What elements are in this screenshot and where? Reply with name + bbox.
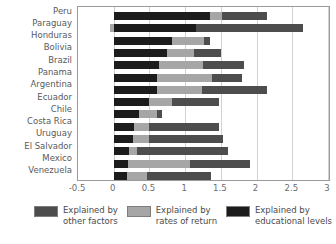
bar-row [78,160,328,168]
bar-segment-edu [114,61,159,69]
bar-segment-edu [114,24,196,32]
legend-label: Explained byrates of return [156,205,217,226]
bar-segment-edu [114,160,128,168]
bar-row [78,74,328,82]
legend-label: Explained byeducational levels [255,205,332,226]
bar-segment-edu [114,12,210,20]
y-axis-label: Ecuador [37,93,72,102]
y-axis-label: Peru [53,7,72,16]
bar-row [78,49,328,57]
bar-segment-ror [139,110,157,118]
y-axis-label: Uruguay [36,129,72,138]
bar-segment-edu [114,98,150,106]
bar-segment-edu [114,37,173,45]
bar-segment-ror [128,160,190,168]
bar-segment-ror [134,123,150,131]
y-axis-label: Panama [38,68,72,77]
bar-segment-ror [127,172,147,180]
bar-segment-oth [196,24,303,32]
bar-segment-oth [172,98,218,106]
stacked-bar-chart: PeruParaguayHondurasBoliviaBrazilPanamaA… [0,0,336,244]
x-tick-label: 3 [324,183,329,193]
bar-segment-edu [114,123,134,131]
bar-row [78,86,328,94]
bar-segment-oth [157,110,163,118]
x-tick-label: 1 [181,183,186,193]
bar-segment-edu [114,86,157,94]
bar-segment-edu [114,74,157,82]
bar-segment-edu [114,110,139,118]
chart-legend: Explained byother factorsExplained byrat… [34,205,332,239]
legend-item[interactable]: Explained byother factors [34,205,118,239]
bar-segment-oth [222,12,267,20]
y-axis-label: Mexico [42,154,72,163]
bar-segment-ror [157,86,202,94]
bar-row [78,110,328,118]
bar-row [78,123,328,131]
legend-swatch-icon [226,206,250,217]
y-axis-label: Paraguay [32,19,72,28]
bar-segment-oth [202,86,268,94]
plot-area [77,6,330,181]
bar-row [78,24,328,32]
bar-segment-ror [210,12,222,20]
bar-segment-oth [147,172,211,180]
legend-label: Explained byother factors [63,205,118,226]
legend-item[interactable]: Explained byrates of return [127,205,217,239]
bar-row [78,147,328,155]
bar-segment-edu [114,135,133,143]
bar-segment-oth [204,37,210,45]
x-tick-label: 2.5 [285,183,299,193]
bar-segment-edu [114,147,130,155]
bar-segment-oth [149,123,218,131]
bar-segment-oth [194,49,221,57]
y-axis-label: Chile [51,105,72,114]
bar-segment-ror [172,37,204,45]
bar-row [78,37,328,45]
bar-segment-edu [114,172,127,180]
bar-series-container [78,7,329,180]
bar-row [78,12,328,20]
bar-segment-ror [110,24,114,32]
bar-segment-ror [157,74,213,82]
y-axis-label: Bolivia [44,43,72,52]
bar-segment-ror [167,49,193,57]
legend-swatch-icon [127,206,151,217]
bar-segment-oth [190,160,250,168]
y-axis-category-labels: PeruParaguayHondurasBoliviaBrazilPanamaA… [0,0,76,182]
x-axis-tick-labels: -0.500.511.522.53 [77,183,330,197]
y-axis-label: El Salvador [24,142,72,151]
bar-segment-oth [212,74,241,82]
bar-row [78,172,328,180]
y-axis-label: Brazil [48,56,72,65]
bar-row [78,61,328,69]
x-tick-label: 0 [110,183,115,193]
bar-segment-ror [129,147,136,155]
bar-row [78,98,328,106]
x-tick-label: 2 [253,183,258,193]
bar-segment-oth [149,135,223,143]
bar-row [78,135,328,143]
x-tick-label: -0.5 [69,183,86,193]
bar-segment-edu [114,49,168,57]
y-axis-label: Honduras [31,31,72,40]
bar-segment-ror [159,61,203,69]
y-axis-label: Venezuela [28,166,72,175]
x-tick-label: 0.5 [142,183,156,193]
bar-segment-ror [149,98,172,106]
y-axis-label: Costa Rica [27,117,72,126]
bar-segment-ror [133,135,149,143]
y-axis-label: Argentina [31,80,72,89]
legend-swatch-icon [34,206,58,217]
bar-segment-oth [137,147,228,155]
x-tick-label: 1.5 [213,183,227,193]
bar-segment-oth [203,61,244,69]
legend-item[interactable]: Explained byeducational levels [226,205,332,239]
